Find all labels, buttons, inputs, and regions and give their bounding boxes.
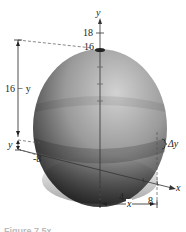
figure-caption: Figure 7.5x bbox=[4, 226, 52, 232]
x-tick-4: 4 bbox=[119, 192, 124, 202]
dimension-16-minus-y bbox=[14, 40, 22, 150]
y-tick-18: 18 bbox=[83, 28, 93, 38]
label-radius-x: x bbox=[126, 199, 132, 209]
label-16-minus-y: 16 − y bbox=[5, 84, 31, 94]
y-tick-16: 16 bbox=[84, 42, 94, 52]
label-delta-y: Δy bbox=[168, 139, 178, 149]
x-axis-label: x bbox=[176, 183, 180, 193]
y-axis-label: y bbox=[96, 8, 100, 18]
x-tick-neg8: -8 bbox=[33, 154, 41, 164]
sphere-diagram bbox=[0, 0, 186, 232]
label-y: y bbox=[8, 140, 12, 150]
sphere-top-point bbox=[95, 48, 105, 52]
x-tick-8: 8 bbox=[148, 196, 153, 206]
